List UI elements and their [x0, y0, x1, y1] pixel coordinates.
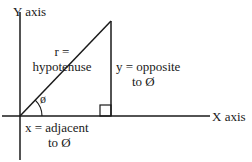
opposite-label-line2: to Ø — [132, 74, 155, 89]
adjacent-label-line2: to Ø — [48, 135, 71, 150]
triangle-diagram — [0, 0, 252, 162]
hypotenuse-label-line1: r = — [32, 44, 92, 59]
x-axis-label: X axis — [212, 109, 246, 124]
angle-label: ø — [40, 92, 46, 107]
opposite-label-line1: y = opposite — [116, 59, 180, 74]
hypotenuse-label-line2: hypotenuse — [28, 59, 96, 74]
y-axis-label: Y axis — [13, 4, 46, 19]
adjacent-label-line1: x = adjacent — [25, 120, 89, 135]
right-angle-marker — [100, 105, 111, 116]
